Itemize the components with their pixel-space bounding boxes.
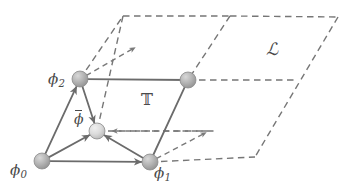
lattice-edge-phi2-down <box>97 16 123 131</box>
node-label-phibar: ϕ <box>74 110 84 126</box>
phi1-subscript: 1 <box>164 172 170 183</box>
solid-graph-edges <box>45 79 188 162</box>
lattice-edge-top-right <box>230 16 338 17</box>
phi0-subscript: 0 <box>20 169 26 180</box>
lattice-edge-bottom-horiz <box>150 157 255 162</box>
phi2-base: ϕ <box>48 70 58 88</box>
node-label-phi1: ϕ1 <box>154 166 171 183</box>
lattice-edge-left-upper <box>80 16 123 79</box>
edge-phi2-corner <box>86 79 188 80</box>
edge-phi0-phibar <box>48 135 90 158</box>
torus-region-label: 𝕋 <box>141 92 153 108</box>
lattice-edge-right-diag <box>255 17 338 157</box>
node-phi2 <box>72 71 88 87</box>
edge-phi1-phibar <box>104 135 144 158</box>
phibar-base: ϕ <box>74 111 84 127</box>
lattice-edge-mid-diagonal <box>188 16 230 80</box>
figure-canvas <box>0 0 356 193</box>
dashed-lattice-lines <box>80 16 338 162</box>
node-phibar <box>89 123 105 139</box>
node-label-phi2: ϕ2 <box>48 72 65 89</box>
edge-corner-phi1 <box>150 86 185 162</box>
lattice-torus-figure: ϕ0 ϕ1 ϕ2 ϕ 𝕋 ℒ <box>0 0 356 193</box>
phi0-base: ϕ <box>10 161 20 179</box>
edge-phi0-phi1 <box>48 161 141 162</box>
node-phi0 <box>34 153 50 169</box>
node-corner <box>180 72 196 88</box>
node-label-phi0: ϕ0 <box>10 163 27 180</box>
phi1-base: ϕ <box>154 164 164 182</box>
phibar-overbar: ϕ <box>74 110 84 126</box>
phi2-subscript: 2 <box>58 78 64 89</box>
basis-vector-arrow-lower <box>156 132 206 158</box>
lattice-region-label: ℒ <box>266 41 278 58</box>
